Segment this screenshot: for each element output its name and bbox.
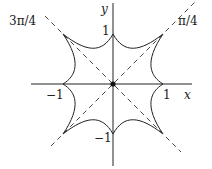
- origin-dot: [110, 81, 115, 86]
- diagonal-label-pi-over-4: π/4: [178, 14, 198, 28]
- tick-label-x-pos: 1: [163, 88, 171, 102]
- cusp-curve-diagram: x y 1 −1 1 −1 π/4 3π/4: [0, 0, 212, 169]
- y-axis-label: y: [100, 2, 108, 16]
- x-axis-label: x: [184, 88, 191, 102]
- diagonal-label-3pi-over-4: 3π/4: [9, 14, 37, 28]
- tick-label-y-pos: 1: [102, 24, 110, 38]
- tick-label-y-neg: −1: [94, 131, 112, 145]
- tick-label-x-neg: −1: [46, 88, 64, 102]
